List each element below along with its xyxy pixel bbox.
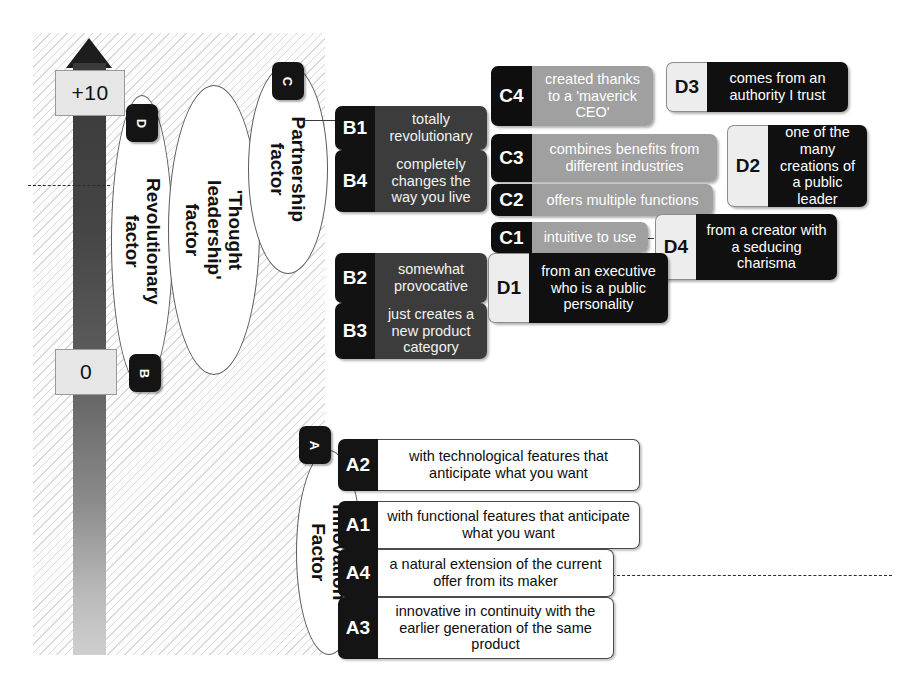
item-a3-code: A3 xyxy=(338,597,378,659)
item-d1-text: from an executive who is a public person… xyxy=(529,253,668,323)
badge-d: D xyxy=(126,104,158,142)
item-a2-text: with technological features that anticip… xyxy=(378,439,640,491)
item-d1-code: D1 xyxy=(488,253,529,323)
item-b4-code: B4 xyxy=(335,150,375,212)
item-b3[interactable]: B3 just creates a new product category xyxy=(335,303,487,359)
item-c4[interactable]: C4 created thanks to a 'maverick CEO' xyxy=(491,66,653,126)
item-d2-code: D2 xyxy=(727,125,768,207)
item-c2-text: offers multiple functions xyxy=(532,184,713,216)
item-c4-code: C4 xyxy=(491,66,532,126)
ellipse-revolutionary-line2: factor xyxy=(121,215,142,268)
item-b3-code: B3 xyxy=(335,303,375,359)
item-b2-code: B2 xyxy=(335,253,375,303)
badge-c-letter: C xyxy=(280,76,295,85)
item-a1-code: A1 xyxy=(338,501,378,549)
item-c1[interactable]: C1 intuitive to use xyxy=(491,222,648,253)
item-b1-text: totally revolutionary xyxy=(375,106,487,150)
badge-a: A xyxy=(299,426,331,464)
item-c1-text: intuitive to use xyxy=(532,222,648,253)
item-b4[interactable]: B4 completely changes the way you live xyxy=(335,150,487,212)
item-a2[interactable]: A2 with technological features that anti… xyxy=(338,439,640,491)
item-c3-code: C3 xyxy=(491,134,532,182)
ellipse-revolutionary-line1: Revolutionary xyxy=(142,178,163,305)
badge-b: B xyxy=(129,354,161,392)
item-b3-text: just creates a new product category xyxy=(375,303,487,359)
right-dashed-guide-line xyxy=(612,575,892,576)
item-a3-text: innovative in continuity with the earlie… xyxy=(378,597,614,659)
item-a4[interactable]: A4 a natural extension of the current of… xyxy=(338,549,614,597)
scale-label-bottom: 0 xyxy=(55,349,117,395)
ellipse-thought-leadership-factor: 'Thought leadership' factor xyxy=(168,85,260,375)
ellipse-partnership-line1: Partnership xyxy=(288,116,309,222)
badge-b-letter: B xyxy=(137,368,152,377)
badge-c: C xyxy=(272,62,304,100)
item-d1[interactable]: D1 from an executive who is a public per… xyxy=(488,253,668,323)
item-c3-text: combines benefits from different industr… xyxy=(532,134,717,182)
ellipse-thought-line1: 'Thought xyxy=(225,190,246,270)
ellipse-innovation-line2: Factor xyxy=(308,523,329,581)
item-b1[interactable]: B1 totally revolutionary xyxy=(335,106,487,150)
badge-a-letter: A xyxy=(307,440,322,449)
item-b4-text: completely changes the way you live xyxy=(375,150,487,212)
item-c2-code: C2 xyxy=(491,184,532,216)
item-a3[interactable]: A3 innovative in continuity with the ear… xyxy=(338,597,614,659)
item-d3[interactable]: D3 comes from an authority I trust xyxy=(666,62,848,112)
item-b2-text: somewhat provocative xyxy=(375,253,487,303)
item-b2[interactable]: B2 somewhat provocative xyxy=(335,253,487,303)
scale-tick-dashed-line xyxy=(28,185,110,186)
diagram-canvas: +10 0 Revolutionary factor 'Thought lead… xyxy=(0,0,899,695)
item-a4-text: a natural extension of the current offer… xyxy=(378,549,614,597)
item-c4-text: created thanks to a 'maverick CEO' xyxy=(532,66,653,126)
item-c1-code: C1 xyxy=(491,222,532,253)
item-a1-text: with functional features that anticipate… xyxy=(378,501,640,549)
badge-d-letter: D xyxy=(134,118,149,127)
item-d2[interactable]: D2 one of the many creations of a public… xyxy=(727,125,867,207)
ellipse-partnership-line2: factor xyxy=(267,143,288,196)
item-a2-code: A2 xyxy=(338,439,378,491)
ellipse-thought-line3: factor xyxy=(182,204,203,257)
item-d4[interactable]: D4 from a creator with a seducing charis… xyxy=(655,214,837,280)
item-b1-code: B1 xyxy=(335,106,375,150)
item-a1[interactable]: A1 with functional features that anticip… xyxy=(338,501,640,549)
item-d3-text: comes from an authority I trust xyxy=(707,62,848,112)
scale-label-top: +10 xyxy=(55,70,125,116)
item-d3-code: D3 xyxy=(666,62,707,112)
ellipse-thought-line2: leadership' xyxy=(204,180,225,280)
item-d4-text: from a creator with a seducing charisma xyxy=(696,214,837,280)
item-c2[interactable]: C2 offers multiple functions xyxy=(491,184,713,216)
item-c3[interactable]: C3 combines benefits from different indu… xyxy=(491,134,717,182)
item-a4-code: A4 xyxy=(338,549,378,597)
item-d2-text: one of the many creations of a public le… xyxy=(768,125,867,207)
